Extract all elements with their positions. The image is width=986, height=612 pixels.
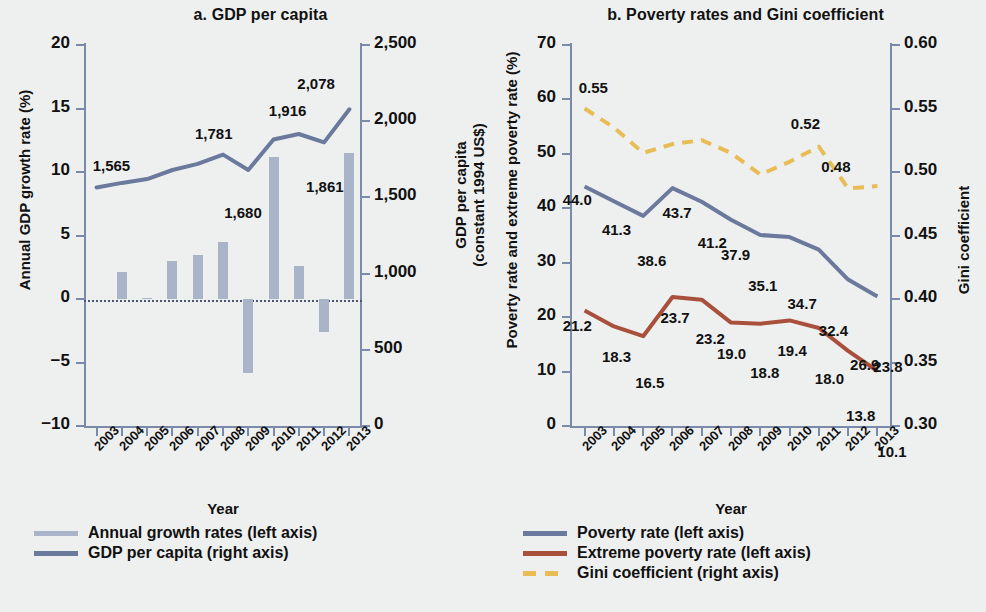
panel-a-left-tick: [76, 425, 84, 427]
panel-b-right-tick: [892, 298, 900, 300]
panel-b-xlabel: Year: [570, 500, 892, 517]
panel-a-legend-item: Annual growth rates (left axis): [34, 524, 527, 542]
panel-b-left-tick-label: 60: [506, 87, 556, 107]
panel-b-extreme-label: 23.7: [660, 309, 689, 326]
panel-a-value-label: 1,781: [195, 125, 233, 142]
panel-a-right-tick-label: 2,500: [374, 33, 444, 53]
panel-a-right-tick: [362, 196, 370, 198]
panel-b-legend-swatch: [523, 531, 567, 536]
panel-b-legend-label: Poverty rate (left axis): [577, 524, 744, 542]
panel-a-left-tick: [76, 362, 84, 364]
panel-b-left-tick: [562, 44, 570, 46]
panel-b-right-tick-label: 0.35: [904, 351, 968, 371]
panel-b-legend: Poverty rate (left axis)Extreme poverty …: [493, 522, 986, 584]
panel-b-left-tick: [562, 371, 570, 373]
panel-a-xlabel: Year: [84, 500, 362, 517]
panel-b-poverty-label: 32.4: [819, 322, 848, 339]
panel-a-right-tick-label: 1,000: [374, 262, 444, 282]
panel-b-right-tick-label: 0.40: [904, 287, 968, 307]
panel-b-poverty-label: 23.8: [873, 358, 902, 375]
panel-a: a. GDP per capita Annual GDP growth rate…: [0, 0, 493, 612]
panel-b-poverty-label: 35.1: [748, 277, 777, 294]
panel-a-right-tick: [362, 120, 370, 122]
panel-b-legend-swatch: [523, 551, 567, 556]
panel-b-right-tick: [892, 108, 900, 110]
panel-a-legend-label: Annual growth rates (left axis): [88, 524, 317, 542]
panel-b-legend-item: Gini coefficient (right axis): [523, 564, 986, 582]
panel-b-plot-area: 706050403020100 0.600.550.500.450.400.35…: [570, 43, 892, 428]
figure-root: a. GDP per capita Annual GDP growth rate…: [0, 0, 986, 612]
panel-a-left-tick-label: 20: [6, 33, 70, 53]
panel-a-ylabel-right-line2: (constant 1994 US$): [470, 30, 488, 360]
panel-b-extreme-label: 18.0: [815, 370, 844, 387]
panel-b-legend-label: Gini coefficient (right axis): [577, 564, 779, 582]
panel-b-right-tick-label: 0.30: [904, 414, 968, 434]
panel-a-left-tick: [76, 108, 84, 110]
panel-b-legend-item: Extreme poverty rate (left axis): [523, 544, 986, 562]
panel-a-left-tick-label: 0: [6, 287, 70, 307]
panel-b-poverty-label: 43.7: [662, 204, 691, 221]
panel-b-left-tick-label: 50: [506, 142, 556, 162]
panel-b-left-tick-label: 0: [506, 414, 556, 434]
panel-b-gini-path: [585, 109, 878, 189]
panel-b-extreme-label: 19.0: [717, 345, 746, 362]
panel-b-right-tick: [892, 44, 900, 46]
panel-b-left-tick-label: 10: [506, 360, 556, 380]
panel-b-right-tick-label: 0.45: [904, 224, 968, 244]
panel-a-plot-area: 20151050−5−10 2,5002,0001,5001,0005000 2…: [84, 43, 362, 428]
panel-a-ylabel-right: GDP per capita (constant 1994 US$): [452, 30, 488, 360]
panel-b-poverty-label: 37.9: [721, 246, 750, 263]
panel-a-left-tick: [76, 235, 84, 237]
panel-b-extreme-label: 19.4: [778, 342, 807, 359]
panel-b-left-tick: [562, 207, 570, 209]
panel-b-left-tick: [562, 98, 570, 100]
panel-b-poverty-label: 41.3: [602, 221, 631, 238]
panel-a-left-tick: [76, 171, 84, 173]
panel-a-value-label: 2,078: [297, 75, 335, 92]
panel-b-gini-label: 0.48: [821, 158, 850, 175]
panel-b-right-tick-label: 0.55: [904, 97, 968, 117]
panel-a-right-tick-label: 500: [374, 338, 444, 358]
panel-a-value-label: 1,565: [93, 157, 131, 174]
panel-a-left-tick-label: 15: [6, 97, 70, 117]
panel-b-right-tick: [892, 235, 900, 237]
panel-a-right-tick-label: 2,000: [374, 109, 444, 129]
panel-b-legend-label: Extreme poverty rate (left axis): [577, 544, 811, 562]
panel-b-left-tick-label: 30: [506, 251, 556, 271]
panel-b-extreme-label: 16.5: [635, 374, 664, 391]
panel-b-gini-label: 0.55: [579, 79, 608, 96]
panel-a-legend-swatch: [34, 531, 78, 536]
panel-a-left-tick-label: −5: [6, 351, 70, 371]
panel-a-value-label: 1,680: [224, 204, 262, 221]
panel-b-left-tick: [562, 425, 570, 427]
panel-a-title: a. GDP per capita: [0, 6, 507, 24]
panel-b-extreme-label: 10.1: [877, 443, 906, 460]
panel-b-left-tick-label: 40: [506, 196, 556, 216]
panel-b-poverty-label: 38.6: [637, 252, 666, 269]
panel-a-left-tick-label: 5: [6, 224, 70, 244]
panel-a-legend-item: GDP per capita (right axis): [34, 544, 527, 562]
panel-b: b. Poverty rates and Gini coefficient Po…: [493, 0, 986, 612]
panel-a-gdp-path: [97, 109, 350, 187]
panel-a-right-tick: [362, 44, 370, 46]
panel-b-extreme-label: 13.8: [846, 407, 875, 424]
panel-b-title: b. Poverty rates and Gini coefficient: [493, 6, 986, 24]
panel-a-value-label: 1,861: [306, 178, 344, 195]
panel-b-left-tick: [562, 153, 570, 155]
panel-a-legend-label: GDP per capita (right axis): [88, 544, 289, 562]
panel-a-value-label: 1,916: [269, 102, 307, 119]
panel-a-legend-swatch: [34, 551, 78, 556]
panel-b-legend-swatch-dashed: [523, 571, 567, 576]
panel-a-gdp-line: [84, 43, 362, 428]
panel-b-left-tick: [562, 262, 570, 264]
panel-b-right-tick-label: 0.60: [904, 33, 968, 53]
panel-a-left-tick: [76, 298, 84, 300]
panel-b-extreme-label: 18.8: [750, 364, 779, 381]
panel-b-poverty-path: [585, 187, 878, 297]
panel-b-left-tick-label: 20: [506, 305, 556, 325]
panel-a-legend: Annual growth rates (left axis)GDP per c…: [0, 522, 527, 564]
panel-a-left-tick-label: −10: [6, 414, 70, 434]
panel-b-poverty-label: 34.7: [788, 295, 817, 312]
panel-b-left-tick-label: 70: [506, 33, 556, 53]
panel-b-gini-label: 0.52: [791, 115, 820, 132]
